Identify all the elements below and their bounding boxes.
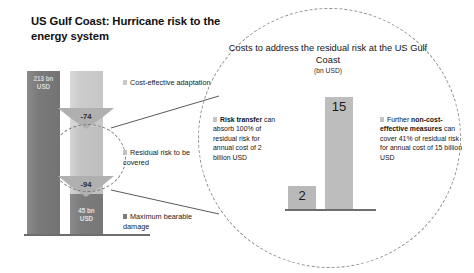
arrow-label-cost-effective-reduction: -74 xyxy=(58,112,114,121)
legend-swatch-icon xyxy=(123,80,127,84)
legend-label-maximum-bearable-damage: Maximum bearable damage xyxy=(123,212,192,231)
note-swatch-icon xyxy=(380,117,384,121)
legend-label-residual-risk: Residual risk to be covered xyxy=(123,148,190,167)
note-further-measures: Further non-cost-effective measures can … xyxy=(380,115,466,162)
note-swatch-icon xyxy=(213,117,217,121)
note-further-lead: Further xyxy=(387,116,411,123)
legend-item-cost-effective-adaptation: Cost-effective adaptation xyxy=(123,78,215,88)
zoom-bubble-title: Costs to address the residual risk at th… xyxy=(222,42,434,67)
infographic-canvas: US Gulf Coast: Hurricane risk to the ene… xyxy=(0,0,474,273)
legend-label-cost-effective-adaptation: Cost-effective adaptation xyxy=(130,78,211,87)
legend-item-maximum-bearable-damage: Maximum bearable damage xyxy=(123,212,215,231)
note-risk-transfer-lead: Risk transfer xyxy=(220,116,262,123)
left-chart-baseline xyxy=(24,234,150,236)
zoom-bubble-subtitle: (bn USD) xyxy=(222,67,434,74)
inner-bar-risk-transfer-value: 2 xyxy=(288,188,316,203)
bar-100-year-damage-value: 213 bn USD xyxy=(27,75,60,90)
segment-maximum-bearable-damage: 45 bn USD xyxy=(70,194,103,234)
inner-bar-non-cost-effective-value: 15 xyxy=(322,99,356,114)
segment-maximum-bearable-damage-value: 45 bn USD xyxy=(70,207,103,222)
bar-100-year-damage-label: 100-year damage xyxy=(10,20,24,150)
legend-swatch-icon xyxy=(123,150,127,154)
legend-swatch-icon xyxy=(123,214,127,218)
focus-ellipse-outline xyxy=(50,124,126,192)
page-title: US Gulf Coast: Hurricane risk to the ene… xyxy=(31,14,221,43)
note-risk-transfer: Risk transfer can absorb 100% of residua… xyxy=(213,115,281,162)
inner-chart-baseline xyxy=(285,209,376,211)
